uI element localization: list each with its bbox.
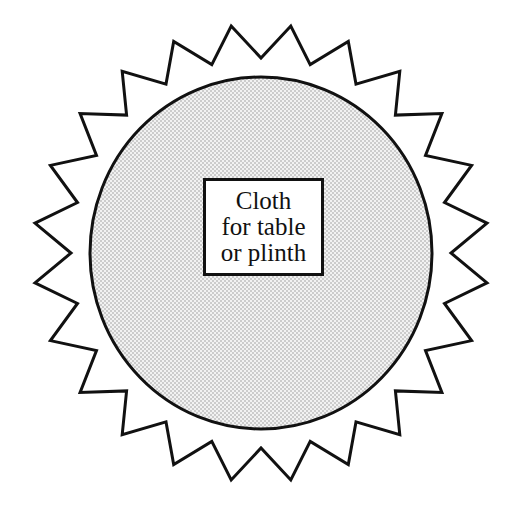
cloth-label-box: Cloth for table or plinth bbox=[203, 178, 324, 276]
label-line-2: for table bbox=[222, 214, 306, 240]
label-line-1: Cloth bbox=[236, 188, 292, 214]
label-line-3: or plinth bbox=[221, 240, 306, 266]
